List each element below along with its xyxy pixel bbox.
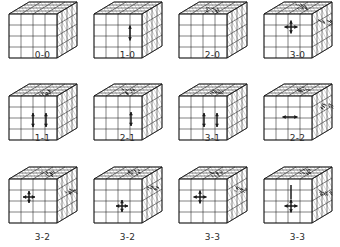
cube-panel-label: 3-1 (170, 133, 255, 143)
cube-panel: 3-0 (255, 0, 340, 82)
cube-panel: 3-2 (85, 165, 170, 247)
cube-panel-label: 2-1 (85, 133, 170, 143)
cube-panel-label: 0-0 (0, 50, 85, 60)
cube-panel-grid: 0-01-02-03-01-12-13-12-23-23-23-33-3 (0, 0, 340, 247)
cube-panel: 1-1 (0, 82, 85, 164)
cube-diagram (3, 165, 83, 227)
cube-panel: 1-0 (85, 0, 170, 82)
cube-graphic (3, 165, 83, 227)
cube-panel-label: 2-2 (255, 133, 340, 143)
cube-panel: 3-3 (170, 165, 255, 247)
cube-panel: 3-2 (0, 165, 85, 247)
cube-panel: 0-0 (0, 0, 85, 82)
cube-panel-label: 3-2 (0, 232, 85, 242)
cube-panel: 3-1 (170, 82, 255, 164)
cube-diagram (88, 165, 168, 227)
cube-panel: 2-0 (170, 0, 255, 82)
cube-panel: 3-3 (255, 165, 340, 247)
cube-panel-label: 2-0 (170, 50, 255, 60)
cube-panel-label: 3-3 (170, 232, 255, 242)
cube-graphic (88, 165, 168, 227)
cube-panel-label: 3-0 (255, 50, 340, 60)
cube-panel-label: 3-3 (255, 232, 340, 242)
cube-panel: 2-2 (255, 82, 340, 164)
cube-diagram (173, 165, 253, 227)
cube-panel-label: 3-2 (85, 232, 170, 242)
cube-panel: 2-1 (85, 82, 170, 164)
cube-diagram (258, 165, 338, 227)
cube-graphic (173, 165, 253, 227)
cube-panel-label: 1-0 (85, 50, 170, 60)
cube-panel-label: 1-1 (0, 133, 85, 143)
cube-graphic (258, 165, 338, 227)
